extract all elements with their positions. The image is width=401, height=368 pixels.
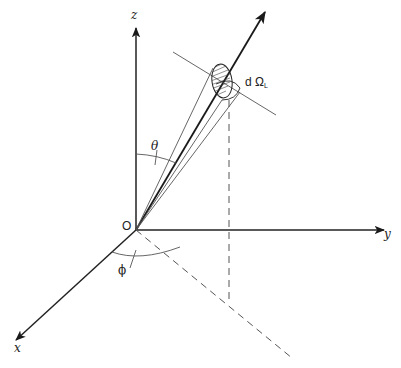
y-axis-label: y	[383, 227, 391, 241]
x-axis	[16, 230, 136, 340]
cone-edge-mid	[136, 100, 222, 230]
theta-label: θ	[151, 139, 159, 153]
cone-edge-lower	[136, 92, 240, 230]
origin-label: O	[122, 219, 131, 233]
z-axis-label: z	[130, 8, 138, 22]
phi-tick	[130, 250, 136, 268]
solid-angle-label: d Ω	[245, 75, 264, 89]
xy-plane-projection-line	[136, 230, 292, 358]
cone-edge-upper	[136, 68, 213, 230]
radial-ray	[136, 12, 265, 230]
solid-angle-disc	[208, 62, 240, 100]
phi-label: ϕ	[118, 263, 126, 277]
solid-angle-subscript: L	[264, 82, 268, 89]
spherical-coordinates-diagram: z y x O θ ϕ d Ω L	[0, 0, 401, 368]
phi-arc	[112, 247, 180, 256]
x-axis-label: x	[14, 341, 21, 355]
